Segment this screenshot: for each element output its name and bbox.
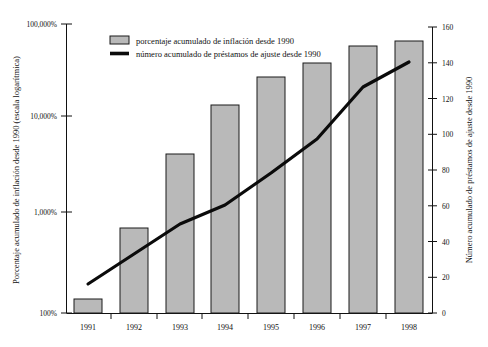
legend-swatch-bar-icon xyxy=(110,36,129,44)
chart-svg: 100,000% 10,000% 1,000% 100% Porcentaje … xyxy=(0,0,488,347)
right-axis-tick-label: 140 xyxy=(442,59,454,68)
left-axis-tick-label: 100% xyxy=(40,309,58,318)
right-axis-tick-label: 60 xyxy=(442,202,450,211)
left-axis-tick-label: 1,000% xyxy=(34,208,57,217)
right-axis-tick-label: 20 xyxy=(442,273,450,282)
left-axis-title: Porcentaje acumulado de inflación desde … xyxy=(11,56,21,284)
bar-1992 xyxy=(120,228,148,313)
left-axis-tick-label: 10,000% xyxy=(30,112,57,121)
x-axis-label-1998: 1998 xyxy=(401,323,417,332)
chart-figure: 100,000% 10,000% 1,000% 100% Porcentaje … xyxy=(0,0,488,347)
x-axis-label-1993: 1993 xyxy=(172,323,188,332)
right-axis-tick-label: 160 xyxy=(442,23,454,32)
bar-1996 xyxy=(303,63,331,313)
bar-1991 xyxy=(74,299,102,313)
right-axis-tick-label: 100 xyxy=(442,130,454,139)
right-axis-title: Número acumulado de préstamos de ajuste … xyxy=(464,77,474,264)
bar-1998 xyxy=(395,41,423,313)
right-axis-tick-label: 0 xyxy=(442,309,446,318)
right-axis-tick-label: 80 xyxy=(442,166,450,175)
legend-label-loans: número acumulado de préstamos de ajuste … xyxy=(136,49,321,59)
right-axis-tick-label: 120 xyxy=(442,95,454,104)
x-axis-label-1992: 1992 xyxy=(126,323,142,332)
bar-1995 xyxy=(257,77,285,313)
x-axis-label-1997: 1997 xyxy=(355,323,371,332)
x-axis-label-1995: 1995 xyxy=(263,323,279,332)
left-axis-tick-label: 100,000% xyxy=(26,20,57,29)
legend-label-inflation: porcentaje acumulado de inflación desde … xyxy=(136,36,294,46)
right-axis-tick-label: 40 xyxy=(442,238,450,247)
x-axis-label-1994: 1994 xyxy=(217,323,233,332)
x-axis-label-1996: 1996 xyxy=(309,323,325,332)
x-axis-label-1991: 1991 xyxy=(80,323,96,332)
bar-1993 xyxy=(166,154,194,313)
